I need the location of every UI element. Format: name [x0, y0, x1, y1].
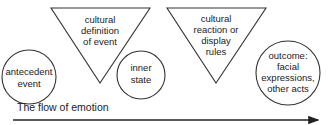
antecedent-event-line-1: antecedent	[5, 66, 52, 77]
node-outcome: outcome: facial expressions, other acts	[256, 41, 320, 105]
antecedent-event-circle	[2, 50, 56, 104]
cultural-reaction-line-4: rules	[206, 46, 227, 57]
outcome-line-4: other acts	[267, 83, 309, 94]
outcome-line-2: facial	[277, 61, 299, 72]
emotion-flow-diagram: antecedent event cultural definition of …	[0, 0, 331, 125]
outcome-line-1: outcome:	[268, 50, 307, 61]
flow-label: The flow of emotion	[17, 101, 109, 113]
cultural-reaction-line-2: reaction or	[194, 24, 239, 35]
antecedent-event-line-2: event	[17, 78, 41, 89]
outcome-line-3: expressions,	[261, 72, 314, 83]
cultural-definition-line-1: cultural	[85, 14, 116, 25]
cultural-reaction-line-1: cultural	[201, 13, 232, 24]
node-antecedent-event: antecedent event	[2, 50, 56, 104]
cultural-definition-line-2: definition	[81, 25, 119, 36]
node-inner-state: inner state	[117, 51, 165, 99]
cultural-definition-line-3: of event	[83, 36, 117, 47]
inner-state-line-2: state	[131, 74, 152, 85]
inner-state-line-1: inner	[130, 62, 151, 73]
node-cultural-reaction: cultural reaction or display rules	[167, 8, 266, 83]
cultural-reaction-line-3: display	[201, 35, 231, 46]
